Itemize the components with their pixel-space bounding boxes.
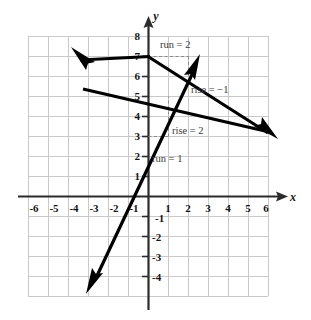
annotation-run-1: run = 1	[152, 153, 182, 164]
annotation-rise-neg-1: rise = −1	[191, 84, 229, 95]
coordinate-plane-svg: x y -6 -5 -4 -3 -2 -1 1 2 3 4 5 6	[0, 0, 311, 320]
y-tick-8: 8	[135, 30, 141, 42]
x-tick-4: 4	[225, 202, 231, 214]
x-tick--5: -5	[49, 202, 59, 214]
x-tick--2: -2	[109, 202, 119, 214]
graph-figure: x y -6 -5 -4 -3 -2 -1 1 2 3 4 5 6	[0, 0, 311, 320]
y-tick-6: 6	[135, 70, 141, 82]
y-tick--3: -3	[152, 251, 162, 263]
y-tick-labels-positive: 1 2 3 4 5 6 7 8	[135, 30, 141, 182]
y-tick-labels-negative: -1 -2 -3 -4	[152, 212, 164, 283]
y-tick-1: 1	[135, 170, 141, 182]
x-tick--3: -3	[89, 202, 99, 214]
x-tick-3: 3	[205, 202, 211, 214]
y-tick-4: 4	[135, 110, 141, 122]
x-tick-2: 2	[185, 202, 191, 214]
y-tick-2: 2	[135, 150, 141, 162]
steep-rising-line	[86, 54, 200, 294]
x-tick--6: -6	[29, 202, 39, 214]
annotation-rise-2: rise = 2	[172, 125, 204, 136]
annotation-run-2: run = 2	[160, 39, 190, 50]
x-tick-labels-positive: 1 2 3 4 5 6	[165, 202, 269, 214]
y-tick--4: -4	[152, 271, 162, 283]
x-tick-6: 6	[263, 202, 269, 214]
y-tick--1: -1	[155, 212, 164, 224]
y-tick--2: -2	[152, 231, 162, 243]
x-tick-1: 1	[165, 202, 171, 214]
x-axis-label: x	[289, 190, 296, 204]
x-tick-5: 5	[245, 202, 251, 214]
x-tick--4: -4	[69, 202, 79, 214]
y-axis-label: y	[151, 9, 159, 23]
y-tick-3: 3	[135, 130, 141, 142]
x-tick-labels-negative: -6 -5 -4 -3 -2 -1	[29, 202, 138, 214]
